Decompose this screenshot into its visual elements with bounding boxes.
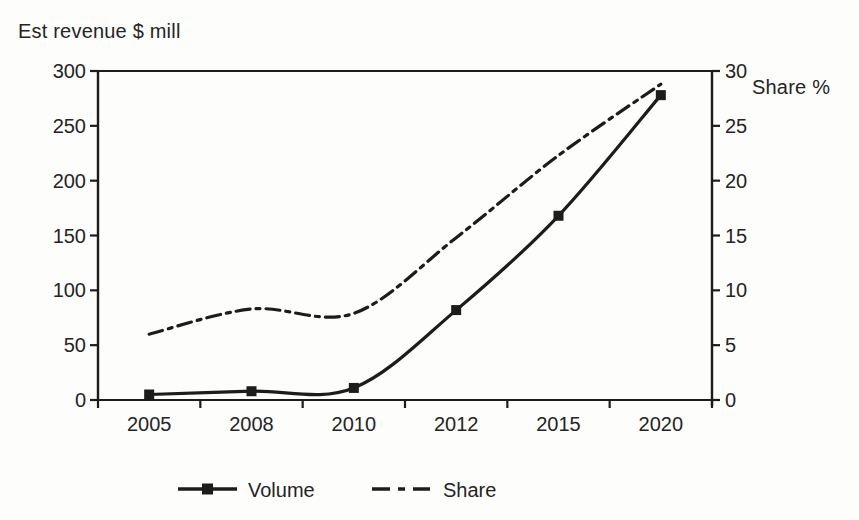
volume-line	[149, 95, 661, 395]
legend-volume-marker	[202, 484, 213, 495]
legend-label-share: Share	[443, 479, 496, 501]
right-axis-tick-label: 5	[725, 334, 736, 356]
x-axis-tick-label: 2005	[127, 413, 172, 435]
x-axis-tick-label: 2008	[229, 413, 274, 435]
left-axis-tick-label: 300	[53, 60, 86, 82]
x-axis-tick-label: 2010	[332, 413, 377, 435]
volume-marker	[656, 90, 666, 100]
left-axis-tick-label: 50	[64, 334, 86, 356]
volume-marker	[144, 390, 154, 400]
volume-marker	[451, 305, 461, 315]
left-axis-tick-label: 150	[53, 225, 86, 247]
x-axis-tick-label: 2015	[536, 413, 581, 435]
chart-page: { "chart_data": { "type": "line", "categ…	[0, 0, 859, 520]
x-axis-tick-label: 2012	[434, 413, 479, 435]
right-axis-tick-label: 30	[725, 60, 747, 82]
left-axis-tick-label: 250	[53, 115, 86, 137]
chart-canvas: 0501001502002503000510152025302005200820…	[0, 0, 859, 520]
left-axis-tick-label: 0	[75, 389, 86, 411]
right-axis-tick-label: 20	[725, 170, 747, 192]
right-axis-tick-label: 25	[725, 115, 747, 137]
x-axis-tick-label: 2020	[639, 413, 684, 435]
left-axis-tick-label: 100	[53, 279, 86, 301]
right-axis-tick-label: 10	[725, 279, 747, 301]
volume-marker	[247, 386, 257, 396]
left-axis-tick-label: 200	[53, 170, 86, 192]
right-axis-tick-label: 0	[725, 389, 736, 411]
right-axis-tick-label: 15	[725, 225, 747, 247]
volume-marker	[554, 211, 564, 221]
legend-label-volume: Volume	[248, 479, 315, 501]
volume-marker	[349, 383, 359, 393]
share-line	[149, 84, 661, 334]
